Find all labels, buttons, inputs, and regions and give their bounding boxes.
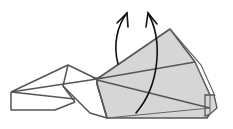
diagram-svg [0,0,233,129]
fold-arrow-left-icon [116,13,128,64]
origami-diagram: Partially folded origami model with shad… [0,0,233,129]
left-body [11,65,107,118]
